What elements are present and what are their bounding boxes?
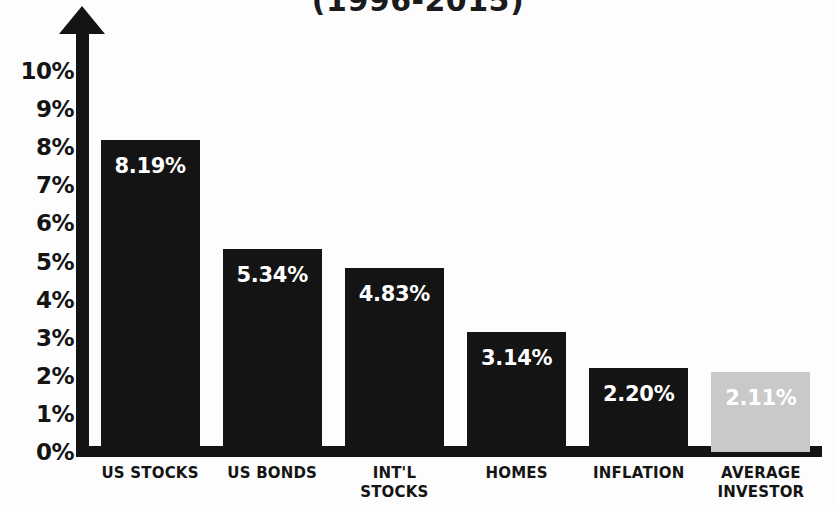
x-axis-category-label: US BONDS bbox=[211, 464, 333, 483]
bar[interactable]: 8.19% bbox=[101, 140, 200, 452]
x-axis-category-label-line: STOCKS bbox=[333, 483, 455, 502]
y-axis-tick-label: 7% bbox=[4, 172, 74, 198]
bar-value-label: 2.11% bbox=[711, 386, 810, 410]
bar[interactable]: 3.14% bbox=[467, 332, 566, 452]
bar-value-label: 5.34% bbox=[223, 263, 322, 287]
x-axis-category-label: INFLATION bbox=[578, 464, 700, 483]
x-axis-category-label-line: HOMES bbox=[456, 464, 578, 483]
x-axis-category-label-line: INVESTOR bbox=[700, 483, 822, 502]
x-axis-category-label-line: INFLATION bbox=[578, 464, 700, 483]
bar-group: 2.11% bbox=[711, 0, 810, 452]
x-axis-category-label: AVERAGEINVESTOR bbox=[700, 464, 822, 502]
x-axis-category-label: HOMES bbox=[456, 464, 578, 483]
bar[interactable]: 5.34% bbox=[223, 249, 322, 452]
x-axis-category-labels: US STOCKSUS BONDSINT'LSTOCKSHOMESINFLATI… bbox=[89, 464, 822, 510]
y-axis-tick-label: 4% bbox=[4, 287, 74, 313]
y-axis-line bbox=[76, 30, 89, 454]
bar-group: 3.14% bbox=[467, 0, 566, 452]
y-axis-tick-label: 1% bbox=[4, 401, 74, 427]
bar-group: 2.20% bbox=[589, 0, 688, 452]
y-axis-tick-label: 10% bbox=[4, 58, 74, 84]
bar-group: 4.83% bbox=[345, 0, 444, 452]
x-axis-category-label: US STOCKS bbox=[89, 464, 211, 483]
x-axis-category-label-line: INT'L bbox=[333, 464, 455, 483]
x-axis-category-label-line: AVERAGE bbox=[700, 464, 822, 483]
bar-value-label: 8.19% bbox=[101, 154, 200, 178]
y-axis-tick-label: 2% bbox=[4, 363, 74, 389]
bar-value-label: 4.83% bbox=[345, 282, 444, 306]
y-axis-tick-label: 6% bbox=[4, 210, 74, 236]
x-axis-category-label-line: US STOCKS bbox=[89, 464, 211, 483]
bar-value-label: 3.14% bbox=[467, 346, 566, 370]
x-axis-category-label: INT'LSTOCKS bbox=[333, 464, 455, 502]
x-axis-category-label-line: US BONDS bbox=[211, 464, 333, 483]
y-axis-tick-label: 0% bbox=[4, 439, 74, 465]
y-axis-tick-label: 3% bbox=[4, 325, 74, 351]
bar-group: 5.34% bbox=[223, 0, 322, 452]
bar-value-label: 2.20% bbox=[589, 382, 688, 406]
y-axis-tick-label: 9% bbox=[4, 96, 74, 122]
bar-chart: (1996-2015) 10%9%8%7%6%5%4%3%2%1%0% 8.19… bbox=[0, 0, 836, 510]
y-axis-tick-labels: 10%9%8%7%6%5%4%3%2%1%0% bbox=[0, 0, 74, 510]
y-axis-tick-label: 8% bbox=[4, 134, 74, 160]
bar[interactable]: 4.83% bbox=[345, 268, 444, 452]
plot-area: 8.19%5.34%4.83%3.14%2.20%2.11% bbox=[89, 0, 822, 452]
y-axis-tick-label: 5% bbox=[4, 249, 74, 275]
bar[interactable]: 2.11% bbox=[711, 372, 810, 452]
bar-group: 8.19% bbox=[101, 0, 200, 452]
bar[interactable]: 2.20% bbox=[589, 368, 688, 452]
